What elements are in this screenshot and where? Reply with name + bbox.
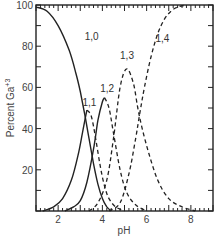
y-axis-title-main: Percent Ga	[5, 86, 16, 137]
y-tick-label: 80	[22, 41, 34, 52]
speciation-chart: 1,01,11,21,31,4 2468 20406080100 pH Perc…	[0, 0, 219, 238]
y-tick-label: 40	[22, 124, 34, 135]
y-tick-label: 100	[16, 0, 33, 11]
curve-label: 1,1	[82, 97, 96, 108]
y-axis-title: Percent Ga+3	[4, 79, 16, 138]
curve-1-2-falling	[105, 98, 147, 211]
curve-label: 1,0	[85, 31, 99, 42]
y-tick-label: 20	[22, 165, 34, 176]
y-tick-labels: 20406080100	[16, 0, 33, 176]
y-tick-label: 60	[22, 82, 34, 93]
curve-1-1-rising	[43, 110, 87, 211]
curve-1-4	[109, 5, 186, 211]
y-axis-title-superscript: +3	[4, 79, 11, 87]
curve-label: 1,2	[100, 83, 114, 94]
curves	[36, 5, 195, 211]
x-tick-label: 6	[144, 214, 150, 225]
curve-label: 1,4	[155, 33, 169, 44]
x-tick-label: 4	[100, 214, 106, 225]
x-axis-title: pH	[118, 225, 131, 236]
curve-label: 1,3	[120, 50, 134, 61]
x-tick-label: 2	[55, 214, 61, 225]
x-tick-labels: 2468	[55, 214, 194, 225]
x-tick-label: 8	[188, 214, 194, 225]
svg-text:Percent Ga+3: Percent Ga+3	[4, 79, 16, 138]
